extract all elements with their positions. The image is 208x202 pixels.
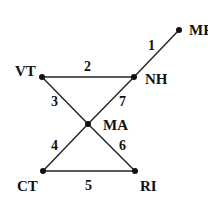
edge-label-3: 3 bbox=[51, 94, 58, 109]
node-ma bbox=[85, 121, 91, 127]
node-label-me: ME bbox=[189, 22, 208, 38]
edge-ma-ct bbox=[43, 124, 88, 171]
edge-label-4: 4 bbox=[51, 138, 58, 153]
node-label-ma: MA bbox=[103, 117, 128, 133]
node-nh bbox=[131, 74, 137, 80]
node-label-ri: RI bbox=[140, 178, 157, 194]
node-vt bbox=[39, 74, 45, 80]
node-ct bbox=[40, 168, 46, 174]
node-label-ct: CT bbox=[17, 178, 38, 194]
edge-label-1: 1 bbox=[148, 38, 155, 53]
edge-nh-me bbox=[134, 30, 179, 77]
edge-label-2: 2 bbox=[84, 59, 91, 74]
state-graph-diagram: 1234567MENHVTMACTRI bbox=[0, 0, 208, 202]
edge-label-6: 6 bbox=[119, 138, 126, 153]
node-label-nh: NH bbox=[145, 71, 168, 87]
edge-label-5: 5 bbox=[85, 178, 92, 193]
node-ri bbox=[132, 168, 138, 174]
node-me bbox=[176, 27, 182, 33]
edges bbox=[42, 30, 179, 171]
node-label-vt: VT bbox=[15, 63, 36, 79]
edge-label-7: 7 bbox=[119, 94, 126, 109]
edge-vt-ma bbox=[42, 77, 88, 124]
